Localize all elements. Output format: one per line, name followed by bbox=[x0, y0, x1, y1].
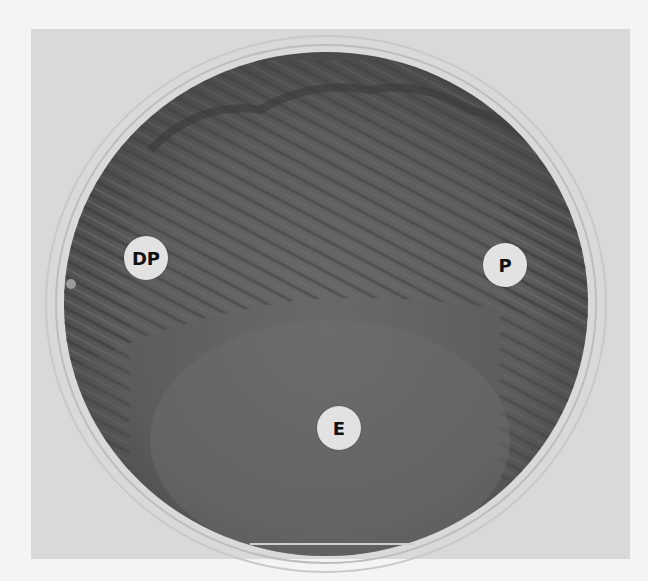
disc-label-e: E bbox=[317, 406, 361, 450]
disc-label-p: P bbox=[483, 243, 527, 287]
petri-dish-photo bbox=[0, 0, 648, 581]
disc-label-dp: DP bbox=[124, 236, 168, 280]
